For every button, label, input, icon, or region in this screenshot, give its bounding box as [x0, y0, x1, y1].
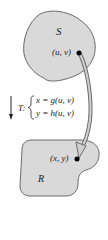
region-r-label: R [38, 174, 44, 184]
point-uv-dot [77, 51, 82, 56]
equation-y: y = h(u, v) [36, 109, 74, 118]
down-arrow-head [9, 114, 13, 120]
point-uv-label: (u, v) [52, 48, 71, 57]
point-xy-label: (x, y) [50, 154, 68, 163]
region-s-label: S [56, 26, 62, 37]
point-xy-dot [75, 157, 80, 162]
region-r [20, 140, 99, 196]
equation-brace [28, 96, 34, 119]
transformation-name: T: [18, 104, 26, 113]
equation-x: x = g(u, v) [36, 96, 74, 105]
